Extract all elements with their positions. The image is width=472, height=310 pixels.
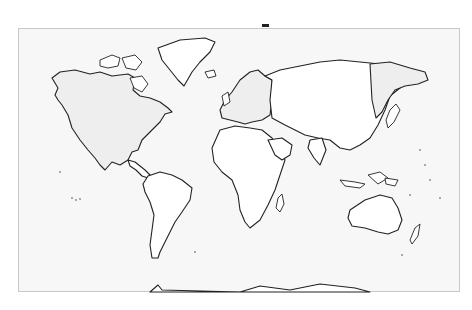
india	[308, 138, 326, 165]
iceland	[205, 70, 216, 78]
world-map	[0, 0, 472, 310]
japan	[386, 104, 400, 128]
central-america	[128, 160, 150, 178]
new-zealand	[410, 224, 420, 244]
antarctica	[150, 284, 370, 292]
south-america	[143, 172, 192, 258]
australia	[348, 195, 402, 234]
indonesia	[340, 180, 365, 188]
greenland	[158, 38, 215, 86]
canadian-arctic-islands	[100, 55, 120, 68]
madagascar	[276, 194, 284, 212]
north-america	[52, 70, 172, 170]
